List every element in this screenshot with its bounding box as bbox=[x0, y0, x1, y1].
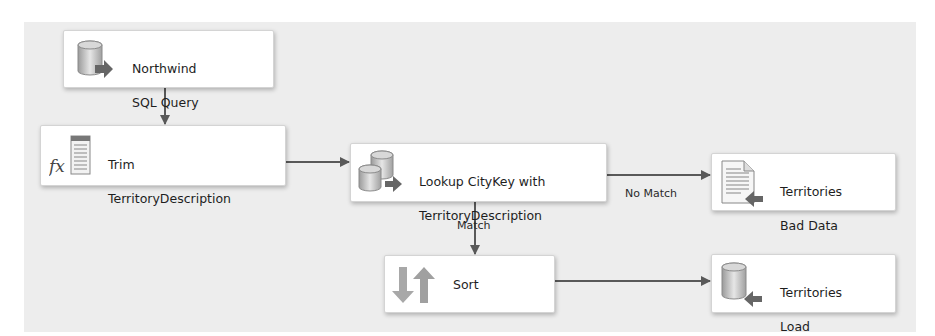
derived-column-fx-icon: fx bbox=[49, 134, 99, 182]
flat-file-destination-icon bbox=[719, 159, 765, 211]
node-territories-load[interactable]: Territories Load bbox=[711, 254, 896, 313]
node-title-line1: Territories bbox=[780, 184, 842, 199]
node-title-line2: TerritoryDescription bbox=[419, 208, 542, 223]
sort-arrows-icon bbox=[392, 265, 438, 309]
node-northwind-sql-query[interactable]: Northwind SQL Query bbox=[63, 30, 274, 88]
node-title-line1: Territories bbox=[780, 285, 842, 300]
node-title-line1: Trim bbox=[108, 157, 135, 172]
svg-text:fx: fx bbox=[49, 156, 65, 176]
node-title-line2: SQL Query bbox=[132, 95, 199, 110]
node-title-line2: Load bbox=[780, 319, 810, 334]
node-sort[interactable]: Sort bbox=[384, 255, 555, 313]
no-match-label: No Match bbox=[625, 187, 677, 200]
node-title-line1: Sort bbox=[453, 276, 479, 293]
database-source-icon bbox=[76, 39, 116, 85]
node-title-line2: Bad Data bbox=[780, 218, 838, 233]
node-title-line2: TerritoryDescription bbox=[108, 191, 231, 206]
database-destination-icon bbox=[720, 261, 766, 311]
node-trim-territory-description[interactable]: fx Trim TerritoryDescription bbox=[40, 125, 286, 186]
node-territories-bad-data[interactable]: Territories Bad Data bbox=[711, 153, 896, 211]
node-title-line1: Northwind bbox=[132, 61, 197, 76]
node-lookup-citykey[interactable]: Lookup CityKey with TerritoryDescription bbox=[350, 143, 607, 202]
node-title-line1: Lookup CityKey with bbox=[419, 174, 545, 189]
lookup-databases-icon bbox=[357, 149, 405, 201]
